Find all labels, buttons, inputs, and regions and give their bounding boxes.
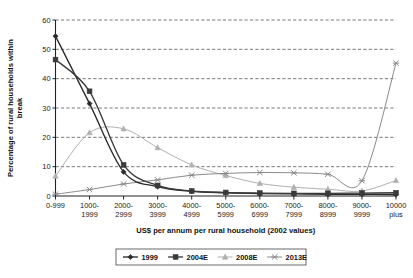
x-tick-label: 6999 bbox=[252, 210, 268, 219]
y-axis-ticks: 0102030405060 bbox=[42, 16, 55, 201]
x-tick-label: 7000- bbox=[284, 201, 303, 210]
y-tick-label: 0 bbox=[46, 192, 50, 201]
y-axis-title-line2: break bbox=[15, 97, 24, 118]
x-tick-label: 2000- bbox=[114, 201, 133, 210]
x-axis-ticks: 0-9991000-19992000-29993000-39994000-499… bbox=[46, 196, 406, 219]
x-tick-label: 1999 bbox=[81, 210, 97, 219]
y-tick-label: 60 bbox=[42, 16, 50, 25]
data-point-2004E-0 bbox=[53, 57, 58, 62]
x-tick-label: 1000- bbox=[80, 201, 99, 210]
data-point-2004E-6 bbox=[257, 191, 262, 196]
data-point-2008E-3 bbox=[155, 145, 160, 150]
y-axis-title-line1: Percentage of rural households within bbox=[6, 39, 15, 177]
y-tick-label: 20 bbox=[42, 133, 50, 142]
data-point-2013E-1 bbox=[86, 187, 92, 192]
chart-container: 01020304050600-9991000-19992000-29993000… bbox=[0, 0, 413, 278]
legend: 19992004E2008E2013E bbox=[116, 249, 307, 265]
data-point-2013E-4 bbox=[189, 172, 195, 177]
x-tick-label: 8000- bbox=[318, 201, 337, 210]
data-point-2004E-7 bbox=[291, 191, 296, 196]
x-tick-label: 3000- bbox=[148, 201, 167, 210]
series-line-2008E bbox=[56, 127, 397, 192]
x-tick-label: 9999 bbox=[354, 210, 370, 219]
line-chart: 01020304050600-9991000-19992000-29993000… bbox=[0, 0, 413, 278]
data-series-group bbox=[52, 34, 399, 198]
data-point-2013E-10 bbox=[393, 60, 399, 65]
y-tick-label: 50 bbox=[42, 45, 50, 54]
x-tick-label: 7999 bbox=[286, 210, 302, 219]
x-tick-label: 5999 bbox=[218, 210, 234, 219]
y-tick-label: 30 bbox=[42, 104, 50, 113]
y-tick-label: 10 bbox=[42, 162, 50, 171]
x-tick-label: 2999 bbox=[115, 210, 131, 219]
x-tick-label: 4000- bbox=[182, 201, 201, 210]
legend-marker-2004E bbox=[173, 255, 178, 260]
data-point-2004E-1 bbox=[87, 89, 92, 94]
legend-label-2013E: 2013E bbox=[286, 253, 307, 262]
legend-label-1999: 1999 bbox=[142, 253, 158, 262]
data-point-2013E-9 bbox=[359, 178, 365, 183]
y-axis-title: Percentage of rural households withinbre… bbox=[6, 39, 24, 177]
data-point-2004E-10 bbox=[394, 190, 399, 195]
x-axis-title: US$ per annum per rural household (2002 … bbox=[136, 226, 315, 235]
x-tick-label: 5000- bbox=[216, 201, 235, 210]
data-point-2004E-3 bbox=[155, 183, 160, 188]
data-point-2004E-8 bbox=[326, 191, 331, 196]
x-tick-label: 9000- bbox=[352, 201, 371, 210]
gridlines bbox=[56, 20, 397, 167]
x-tick-label: 3999 bbox=[149, 210, 165, 219]
data-point-2004E-2 bbox=[121, 163, 126, 168]
x-tick-label: plus bbox=[389, 210, 403, 219]
data-point-2004E-9 bbox=[360, 191, 365, 196]
x-tick-label: 6000- bbox=[250, 201, 269, 210]
data-point-1999-1 bbox=[87, 101, 92, 106]
series-line-1999 bbox=[56, 36, 397, 194]
x-tick-label: 4999 bbox=[183, 210, 199, 219]
data-point-2013E-3 bbox=[154, 177, 160, 182]
y-tick-label: 40 bbox=[42, 74, 50, 83]
x-tick-label: 0-999 bbox=[46, 201, 65, 210]
x-tick-label: 10000 bbox=[386, 201, 407, 210]
data-point-2013E-7 bbox=[291, 170, 297, 175]
data-point-2004E-4 bbox=[189, 189, 194, 194]
data-point-2013E-6 bbox=[257, 170, 263, 175]
data-point-2013E-2 bbox=[120, 181, 126, 186]
data-point-2008E-10 bbox=[393, 178, 398, 183]
data-point-2013E-8 bbox=[325, 172, 331, 177]
legend-label-2008E: 2008E bbox=[236, 253, 257, 262]
data-point-2008E-1 bbox=[87, 130, 92, 135]
legend-label-2004E: 2004E bbox=[187, 253, 208, 262]
x-tick-label: 8999 bbox=[320, 210, 336, 219]
data-point-1999-0 bbox=[53, 34, 58, 39]
data-point-2004E-5 bbox=[223, 190, 228, 195]
